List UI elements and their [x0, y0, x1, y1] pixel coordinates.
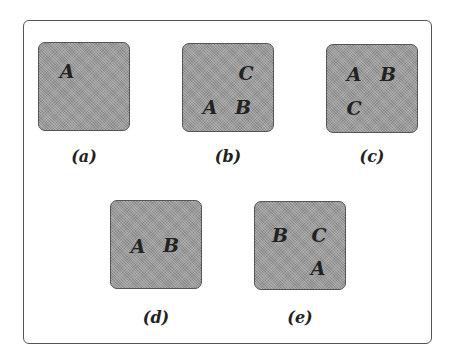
panel-a-letter-a: A	[60, 62, 75, 81]
panel-c: A B C	[326, 44, 418, 133]
panel-d-letter-b: B	[163, 236, 179, 255]
caption-c: (c)	[360, 149, 385, 165]
caption-b: (b)	[215, 149, 241, 165]
panel-a: A	[38, 42, 130, 131]
panel-c-letter-b: B	[380, 65, 396, 84]
panel-b: C A B	[182, 43, 274, 132]
panel-e: B C A	[254, 201, 346, 290]
panel-d: A B	[110, 200, 202, 289]
panel-e-letter-a: A	[311, 259, 326, 278]
caption-d: (d)	[143, 310, 169, 326]
panel-d-letter-a: A	[131, 237, 146, 256]
panel-e-letter-c: C	[311, 226, 326, 245]
caption-a: (a)	[71, 149, 97, 165]
panel-e-letter-b: B	[272, 226, 288, 245]
panel-c-letter-c: C	[346, 99, 361, 118]
caption-e: (e)	[287, 310, 312, 326]
panel-b-letter-a: A	[203, 98, 218, 117]
panel-b-letter-c: C	[238, 64, 253, 83]
panel-b-letter-b: B	[235, 98, 251, 117]
panel-c-letter-a: A	[347, 65, 362, 84]
